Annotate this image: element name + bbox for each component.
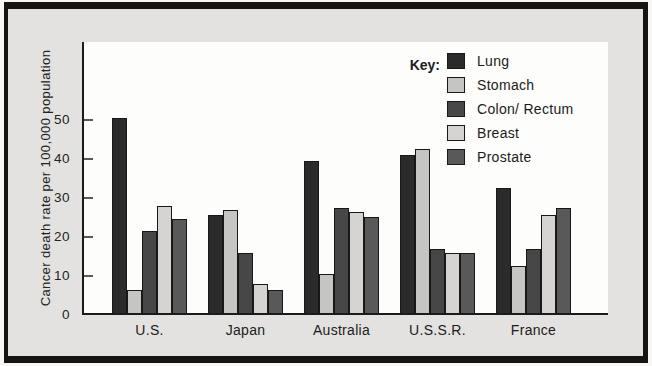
legend-item-stomach: Stomach [447,77,574,93]
bar-australia-breast [349,212,364,313]
x-category-label-australia: Australia [294,322,390,338]
y-tick-mark-50 [84,119,93,121]
bar-japan-lung [208,215,223,313]
bar-france-breast [541,215,556,313]
x-category-label-japan: Japan [198,322,294,338]
legend-title: Key: [396,57,440,73]
x-category-label-u-s: U.S. [102,322,198,338]
legend-label-colon-rectum: Colon/ Rectum [477,101,574,117]
bar-australia-prostate [364,217,379,313]
legend-item-lung: Lung [447,53,574,69]
x-category-label-france: France [486,322,582,338]
bar-japan-breast [253,284,268,313]
bar-u-s-s-r-breast [445,253,460,313]
bar-france-lung [496,188,511,313]
bar-u-s-prostate [172,219,187,313]
legend-swatch-colon-rectum [447,101,465,117]
y-tick-label-0: 0 [38,307,70,322]
y-tick-mark-20 [84,236,93,238]
bar-australia-lung [304,161,319,313]
legend-swatch-stomach [447,77,465,93]
bar-japan-stomach [223,210,238,313]
bar-u-s-s-r-stomach [415,149,430,313]
y-tick-mark-10 [84,275,93,277]
bar-australia-colon-rectum [334,208,349,313]
y-tick-label-40: 40 [38,151,70,166]
bar-u-s-colon-rectum [142,231,157,313]
y-tick-label-50: 50 [38,112,70,127]
bar-u-s-s-r-lung [400,155,415,313]
legend-label-stomach: Stomach [477,77,534,93]
chart-figure: Cancer death rate per 100,000 population… [0,0,652,366]
legend-item-colon-rectum: Colon/ Rectum [447,101,574,117]
legend-label-prostate: Prostate [477,149,532,165]
y-tick-label-20: 20 [38,229,70,244]
legend-label-breast: Breast [477,125,519,141]
bar-japan-colon-rectum [238,253,253,313]
legend-swatch-lung [447,53,465,69]
bar-japan-prostate [268,290,283,313]
y-tick-label-10: 10 [38,268,70,283]
bar-u-s-s-r-colon-rectum [430,249,445,313]
y-tick-label-30: 30 [38,190,70,205]
bar-france-prostate [556,208,571,313]
bar-france-colon-rectum [526,249,541,313]
y-tick-mark-40 [84,158,93,160]
y-tick-mark-30 [84,197,93,199]
bar-u-s-stomach [127,290,142,313]
legend-item-breast: Breast [447,125,574,141]
legend-item-prostate: Prostate [447,149,574,165]
bar-u-s-s-r-prostate [460,253,475,313]
x-category-label-u-s-s-r: U.S.S.R. [390,322,486,338]
bar-france-stomach [511,266,526,313]
bar-u-s-breast [157,206,172,313]
legend: LungStomachColon/ RectumBreastProstate [447,53,574,173]
bar-australia-stomach [319,274,334,313]
legend-label-lung: Lung [477,53,509,69]
legend-swatch-breast [447,125,465,141]
legend-swatch-prostate [447,149,465,165]
bar-u-s-lung [112,118,127,313]
